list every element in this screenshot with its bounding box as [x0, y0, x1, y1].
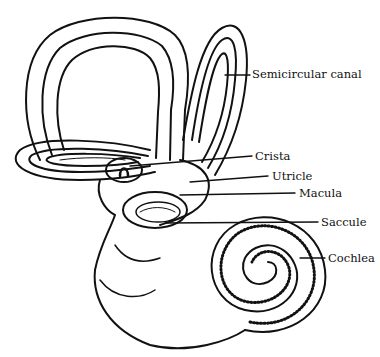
- label-semicircular-canal: Semicircular canal: [252, 67, 362, 81]
- label-macula: Macula: [299, 186, 342, 200]
- semicircular-canal-left: [26, 18, 188, 160]
- label-saccule: Saccule: [321, 215, 367, 229]
- label-utricle: Utricle: [272, 169, 312, 183]
- label-crista: Crista: [255, 149, 290, 163]
- inner-ear-diagram: Semicircular canal Crista Utricle Macula…: [0, 0, 380, 357]
- label-cochlea: Cochlea: [328, 251, 375, 265]
- semicircular-canal-right: [183, 26, 247, 175]
- inner-ear-illustration: [0, 0, 380, 357]
- cochlea-spiral: [212, 217, 326, 332]
